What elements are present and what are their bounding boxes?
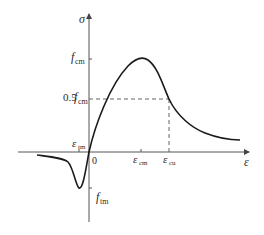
svg-text:cm: cm (78, 97, 89, 106)
label-ftm: f tm (96, 190, 109, 206)
label-fcm: f cm (71, 50, 86, 66)
svg-text:tm: tm (100, 197, 109, 206)
label-half-fcm: 0.5 f cm (63, 90, 89, 106)
svg-text:cu: cu (169, 159, 176, 167)
origin-label: 0 (92, 155, 97, 166)
label-ecm: ε cm (133, 153, 148, 167)
svg-text:ε: ε (72, 137, 77, 149)
svg-text:ε: ε (133, 153, 138, 165)
svg-text:cm: cm (139, 159, 148, 167)
label-etm: ε tm (72, 137, 86, 151)
svg-text:tm: tm (78, 143, 86, 151)
svg-text:cm: cm (75, 57, 86, 66)
diagram-canvas: σ ε 0 f cm 0.5 f cm f tm ε tm ε cm (0, 0, 264, 235)
x-axis-label: ε (244, 155, 249, 169)
y-axis-label: σ (79, 12, 86, 26)
stress-strain-curve (37, 58, 240, 188)
svg-text:ε: ε (163, 153, 168, 165)
label-ecu: ε cu (163, 153, 176, 167)
stress-strain-diagram: σ ε 0 f cm 0.5 f cm f tm ε tm ε cm (0, 0, 264, 235)
